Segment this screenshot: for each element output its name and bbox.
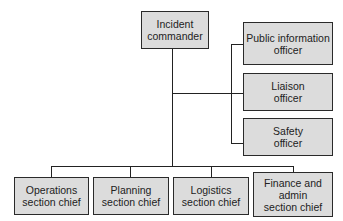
operations-section-chief-box: Operations section chief [14,177,89,215]
public-information-officer-box: Public information officer [243,22,333,65]
planning-drop-line [130,166,131,177]
sections-bus-line [51,166,294,167]
commander-stem-line [172,49,173,167]
operations-drop-line [51,166,52,177]
finance-admin-section-chief-box: Finance and admin section chief [253,172,333,217]
safety-connector [231,143,243,144]
incident-commander-box: Incident commander [141,11,209,49]
staff-bracket-line [231,44,232,143]
liaison-officer-box: Liaison officer [243,73,333,111]
safety-officer-box: Safety officer [243,118,333,156]
logistics-section-chief-box: Logistics section chief [173,177,249,215]
public-info-connector [231,44,243,45]
logistics-drop-line [211,166,212,177]
planning-section-chief-box: Planning section chief [93,177,169,215]
staff-branch-line [172,93,243,94]
